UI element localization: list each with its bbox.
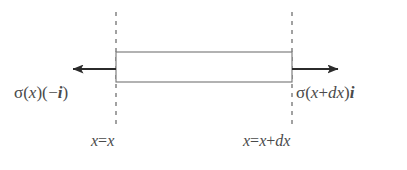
right-argument-dx: dx [328,83,344,102]
stress-element-figure: σ(x)(−i) σ(x+dx)i x=x x=x+dx [0,0,407,170]
sigma-symbol-right: σ [296,83,305,102]
minus-sign: − [48,83,58,102]
left-traction-label: σ(x)(−i) [14,84,69,101]
left-position-rhs: x [107,132,114,149]
right-traction-label: σ(x+dx)i [296,84,354,101]
right-position-label: x=x+dx [243,133,290,149]
right-position-equals: = [250,132,259,149]
left-position-label: x=x [91,133,114,149]
left-position-equals: = [98,132,107,149]
left-factor-close-paren: ) [63,83,69,102]
right-position-plus: + [266,132,275,149]
plus-sign-right-traction: + [318,83,328,102]
right-position-rhs-dx: dx [275,132,290,149]
sigma-symbol-left: σ [14,83,23,102]
differential-element-rect [116,52,292,82]
unit-vector-i-right: i [350,83,355,102]
